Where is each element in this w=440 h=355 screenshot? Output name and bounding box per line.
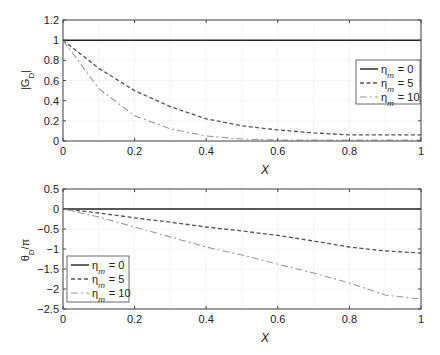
magnitude-plot: 00.20.40.60.8100.20.40.60.811.2X|GD|ηm =… bbox=[19, 14, 424, 177]
y-tick-label: 0.5 bbox=[44, 183, 59, 195]
figure: 00.20.40.60.8100.20.40.60.811.2X|GD|ηm =… bbox=[0, 0, 440, 355]
x-tick-label: 0.6 bbox=[270, 313, 285, 325]
y-tick-label: −1.5 bbox=[37, 263, 59, 275]
x-tick-label: 0.4 bbox=[199, 313, 214, 325]
y-axis-label: θD/π bbox=[19, 238, 36, 261]
y-tick-label: −2 bbox=[46, 283, 59, 295]
y-tick-label: −2.5 bbox=[37, 303, 59, 315]
legend-entry: ηm = 10 bbox=[381, 91, 420, 108]
y-tick-label: 0.2 bbox=[44, 115, 59, 127]
series-eta-5 bbox=[63, 209, 421, 253]
y-tick-label: 1.2 bbox=[44, 14, 59, 26]
y-tick-label: 0.6 bbox=[44, 75, 59, 87]
x-axis-label: X bbox=[260, 163, 270, 177]
x-axis-label: X bbox=[260, 331, 270, 345]
x-tick-label: 1 bbox=[418, 145, 424, 157]
x-tick-label: 0.2 bbox=[127, 145, 142, 157]
y-tick-label: 0.4 bbox=[44, 95, 59, 107]
x-tick-label: 0.2 bbox=[127, 313, 142, 325]
y-axis-label: |GD| bbox=[19, 70, 36, 90]
legend: ηm = 0ηm = 5ηm = 10 bbox=[67, 256, 131, 304]
x-tick-label: 0.6 bbox=[270, 145, 285, 157]
phase-plot: 00.20.40.60.81−2.5−2−1.5−1−0.500.5XθD/πη… bbox=[19, 183, 424, 345]
y-tick-label: 1 bbox=[53, 34, 59, 46]
y-tick-label: −0.5 bbox=[37, 223, 59, 235]
y-tick-label: 0 bbox=[53, 203, 59, 215]
y-tick-label: 0.8 bbox=[44, 54, 59, 66]
x-tick-label: 1 bbox=[418, 313, 424, 325]
legend: ηm = 0ηm = 5ηm = 10 bbox=[356, 60, 420, 108]
y-tick-label: −1 bbox=[46, 243, 59, 255]
x-tick-label: 0.8 bbox=[342, 145, 357, 157]
x-tick-label: 0 bbox=[60, 145, 66, 157]
x-tick-label: 0.4 bbox=[199, 145, 214, 157]
y-tick-label: 0 bbox=[53, 135, 59, 147]
x-tick-label: 0 bbox=[60, 313, 66, 325]
x-tick-label: 0.8 bbox=[342, 313, 357, 325]
